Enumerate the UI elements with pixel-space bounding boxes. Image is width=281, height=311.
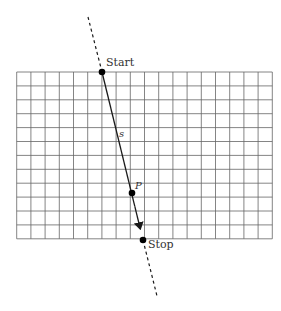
- dashed-line-extension-top: [88, 17, 102, 72]
- line-segment-start-to-stop: [102, 72, 135, 206]
- stop-label: Stop: [148, 238, 174, 251]
- start-point: [99, 69, 106, 76]
- point-p-label: P: [134, 180, 142, 191]
- segment-s-label: s: [119, 128, 124, 139]
- pixel-grid: [17, 72, 273, 239]
- start-label: Start: [106, 56, 135, 69]
- stop-point: [140, 237, 147, 244]
- line-grid-diagram: Start s P Stop: [0, 0, 281, 311]
